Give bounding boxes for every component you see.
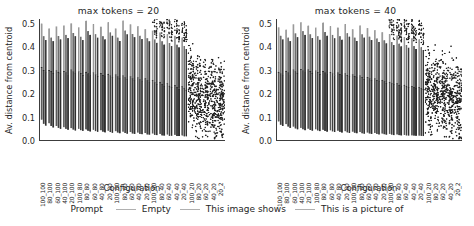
panel-max-tokens-40: max tokens = 40 Av. distance from centro… — [237, 0, 474, 196]
panel-max-tokens-20: max tokens = 20 Av. distance from centro… — [0, 0, 237, 196]
y-tick-label: 0.5 — [259, 19, 272, 29]
legend-line-icon — [295, 209, 315, 210]
y-tick-label: 0.4 — [259, 42, 272, 52]
plot-area — [39, 19, 225, 141]
y-axis-label: Av. distance from centroid — [239, 18, 253, 142]
y-tick-label: 0.2 — [259, 89, 272, 99]
x-axis-ticks: 100_10080_10060_10040_10020_100100_8080_… — [39, 143, 225, 183]
legend: Prompt EmptyThis image showsThis is a pi… — [0, 198, 474, 220]
panel-title: max tokens = 20 — [0, 5, 237, 16]
x-axis-label: Configuration — [276, 183, 462, 193]
y-tick-label: 0.0 — [22, 136, 35, 146]
plot-canvas — [277, 19, 462, 140]
legend-entry[interactable]: Empty — [116, 204, 171, 214]
y-axis-ticks: 0.00.10.20.30.40.5 — [15, 18, 37, 142]
legend-title: Prompt — [70, 204, 102, 214]
y-tick-label: 0.3 — [22, 66, 35, 76]
y-axis-label: Av. distance from centroid — [2, 18, 16, 142]
legend-label: This image shows — [206, 204, 286, 214]
legend-entry[interactable]: This image shows — [180, 204, 286, 214]
y-tick-label: 0.1 — [259, 113, 272, 123]
plot-area — [276, 19, 462, 141]
x-axis-label: Configuration — [39, 183, 225, 193]
legend-label: This is a picture of — [321, 204, 404, 214]
figure-container: max tokens = 20 Av. distance from centro… — [0, 0, 474, 226]
y-tick-label: 0.5 — [22, 19, 35, 29]
y-tick-label: 0.0 — [259, 136, 272, 146]
legend-entry[interactable]: This is a picture of — [295, 204, 404, 214]
y-tick-label: 0.3 — [259, 66, 272, 76]
y-tick-label: 0.2 — [22, 89, 35, 99]
panel-title: max tokens = 40 — [237, 5, 474, 16]
plot-canvas — [40, 19, 225, 140]
y-tick-label: 0.1 — [22, 113, 35, 123]
legend-line-icon — [180, 209, 200, 210]
y-tick-label: 0.4 — [22, 42, 35, 52]
legend-line-icon — [116, 209, 136, 210]
legend-label: Empty — [142, 204, 171, 214]
x-axis-ticks: 100_10080_10060_10040_10020_100100_8080_… — [276, 143, 462, 183]
y-axis-ticks: 0.00.10.20.30.40.5 — [252, 18, 274, 142]
panels-row: max tokens = 20 Av. distance from centro… — [0, 0, 474, 196]
